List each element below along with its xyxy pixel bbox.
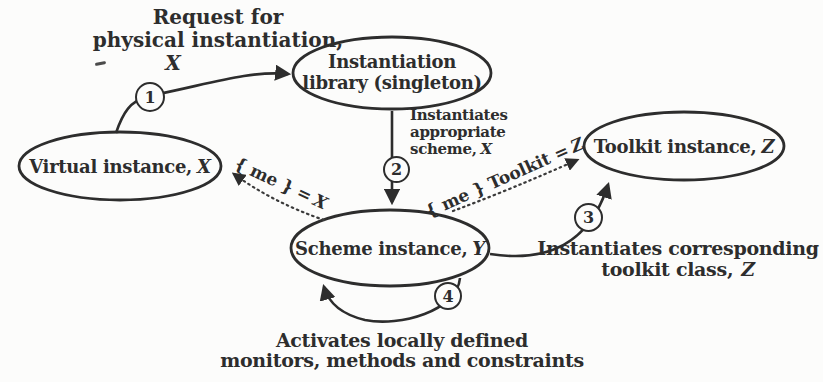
request-line2: physical instantiation, bbox=[93, 29, 343, 52]
instantiate-scheme-line3: scheme, bbox=[410, 140, 477, 158]
toolkit-instance-variable: Z bbox=[761, 136, 774, 157]
scheme-instance-variable: Y bbox=[472, 238, 485, 259]
instantiate-scheme-variable: X bbox=[481, 140, 492, 158]
toolkit-instance-text: Toolkit instance, bbox=[594, 136, 757, 157]
request-annotation: Request for physical instantiation, X bbox=[93, 6, 343, 75]
instantiate-scheme-line2: appropriate bbox=[410, 124, 508, 141]
activate-annotation: Activates locally defined monitors, meth… bbox=[220, 330, 584, 370]
step-number-1: 1 bbox=[144, 88, 155, 107]
diagram-canvas: Virtual instance,X Instantiation library… bbox=[0, 0, 823, 382]
instantiate-toolkit-line2: toolkit class, bbox=[601, 258, 733, 280]
virtual-instance-label: Virtual instance,X bbox=[29, 157, 211, 178]
instantiate-toolkit-line1: Instantiates corresponding bbox=[537, 238, 818, 259]
virtual-instance-text: Virtual instance, bbox=[29, 156, 192, 177]
step-number-3: 3 bbox=[583, 208, 594, 227]
step-badge-2: 2 bbox=[383, 156, 410, 183]
step-number-4: 4 bbox=[442, 287, 453, 306]
virtual-instance-variable: X bbox=[197, 156, 211, 177]
activate-line2: monitors, methods and constraints bbox=[220, 350, 584, 370]
step-number-2: 2 bbox=[391, 160, 402, 179]
step-badge-4: 4 bbox=[434, 282, 462, 310]
instantiate-scheme-annotation: Instantiates appropriate scheme,X bbox=[410, 107, 508, 158]
activate-line1: Activates locally defined bbox=[220, 330, 584, 350]
instantiation-library-text-line2: library (singleton) bbox=[302, 73, 481, 94]
step-badge-3: 3 bbox=[574, 203, 603, 232]
request-line1: Request for bbox=[93, 6, 343, 29]
scheme-instance-text: Scheme instance, bbox=[295, 238, 467, 259]
edge-request-arrow bbox=[158, 73, 288, 94]
request-variable: X bbox=[48, 52, 298, 75]
instantiate-toolkit-annotation: Instantiates corresponding toolkit class… bbox=[537, 238, 818, 280]
toolkit-instance-label: Toolkit instance,Z bbox=[594, 137, 775, 158]
step-badge-1: 1 bbox=[135, 82, 165, 112]
scheme-instance-label: Scheme instance,Y bbox=[295, 239, 485, 260]
instantiate-toolkit-variable: Z bbox=[741, 258, 755, 280]
instantiate-scheme-line1: Instantiates bbox=[410, 107, 508, 124]
